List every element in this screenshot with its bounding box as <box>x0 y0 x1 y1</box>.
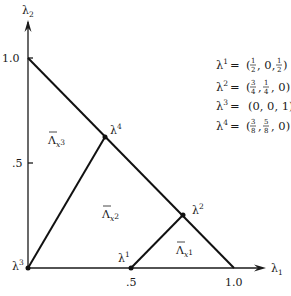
vertex-label-l1: λ1 <box>118 250 130 265</box>
svg-text:, 0,: , 0, <box>257 58 275 72</box>
svg-text:Λx1: Λx1 <box>175 244 193 259</box>
svg-text:,: , <box>258 80 262 94</box>
svg-text:4: 4 <box>264 88 269 96</box>
svg-text:1: 1 <box>251 57 255 65</box>
partition-edges <box>28 58 234 268</box>
hypotenuse-edge <box>28 58 234 268</box>
vertex-dot-l2 <box>181 213 186 218</box>
y-tick-1: 1.0 <box>2 52 20 65</box>
region-label-x2: Λx2 <box>101 206 119 223</box>
svg-text:1: 1 <box>264 79 268 87</box>
legend-row-l1: λ1= ( 1 2 , 0, 1 2 ) <box>216 57 288 74</box>
svg-text:,: , <box>258 119 262 133</box>
y-axis-label: λ2 <box>22 4 34 19</box>
svg-text:3: 3 <box>251 79 255 87</box>
svg-text:λ4=: λ4= <box>216 118 240 133</box>
svg-text:3: 3 <box>251 118 255 126</box>
vertex-dot-l1 <box>129 266 134 271</box>
simplex-partition-diagram: λ2 λ1 1.0 .5 .5 1.0 λ1 λ2 λ3 λ4 Λx3 Λx2 … <box>0 0 291 296</box>
edge-l3-l4 <box>28 137 105 268</box>
svg-text:Λx2: Λx2 <box>101 208 119 223</box>
x-axis-label: λ1 <box>271 262 283 277</box>
svg-text:, 0): , 0) <box>271 80 290 94</box>
svg-text:(: ( <box>246 119 251 133</box>
svg-text:): ) <box>283 58 288 72</box>
vertex-dot-l4 <box>103 135 108 140</box>
region-label-x3: Λx3 <box>47 132 65 149</box>
svg-text:(0, 0, 1): (0, 0, 1) <box>248 99 291 113</box>
vertex-label-l4: λ4 <box>110 122 122 137</box>
svg-text:(: ( <box>246 80 251 94</box>
y-axis <box>25 20 34 268</box>
svg-text:(: ( <box>246 58 251 72</box>
svg-text:2: 2 <box>277 66 281 74</box>
svg-text:λ2=: λ2= <box>216 79 240 94</box>
x-tick-1: 1.0 <box>225 276 243 289</box>
svg-text:8: 8 <box>264 127 268 135</box>
svg-text:8: 8 <box>251 127 255 135</box>
svg-text:, 0): , 0) <box>271 119 290 133</box>
svg-text:4: 4 <box>251 88 256 96</box>
legend-row-l4: λ4= ( 3 8 , 5 8 , 0) <box>216 118 290 135</box>
legend-row-l2: λ2= ( 3 4 , 1 4 , 0) <box>216 79 290 96</box>
svg-text:1: 1 <box>277 57 281 65</box>
svg-text:2: 2 <box>251 66 255 74</box>
vertex-dot-l3 <box>26 266 31 271</box>
edge-l1-l2 <box>131 215 183 268</box>
svg-text:λ3=: λ3= <box>216 98 240 113</box>
vertex-legend: λ1= ( 1 2 , 0, 1 2 ) λ2= ( 3 4 , 1 4 , 0… <box>216 57 291 135</box>
vertex-label-l2: λ2 <box>192 202 204 217</box>
x-tick-05: .5 <box>126 276 137 289</box>
region-label-x1: Λx1 <box>175 242 193 259</box>
svg-text:λ1=: λ1= <box>216 57 240 72</box>
svg-text:Λx3: Λx3 <box>47 134 65 149</box>
legend-row-l3: λ3= (0, 0, 1) <box>216 98 291 113</box>
vertex-label-l3: λ3 <box>12 258 24 273</box>
svg-text:5: 5 <box>264 118 268 126</box>
y-tick-05: .5 <box>12 157 23 170</box>
